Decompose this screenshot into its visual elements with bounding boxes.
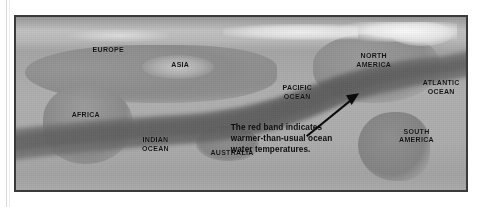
world-map: EUROPE ASIA AFRICA INDIAN OCEAN AUSTRALI… xyxy=(16,17,466,190)
map-label-asia: ASIA xyxy=(171,60,189,69)
figure-frame: EUROPE ASIA AFRICA INDIAN OCEAN AUSTRALI… xyxy=(14,15,468,192)
map-label-indian-ocean: INDIAN OCEAN xyxy=(142,136,169,153)
map-label-north-america: NORTH AMERICA xyxy=(356,52,391,69)
map-label-atlantic-ocean: ATLANTIC OCEAN xyxy=(423,79,460,96)
map-label-south-america: SOUTH AMERICA xyxy=(399,127,434,144)
map-label-pacific-ocean: PACIFIC OCEAN xyxy=(282,84,312,101)
print-grain xyxy=(16,17,466,190)
page-margin-rule-inner xyxy=(9,0,10,207)
map-label-europe: EUROPE xyxy=(93,46,124,55)
page-margin-rule xyxy=(6,0,7,207)
callout-text: The red band indicates warmer-than-usual… xyxy=(231,122,333,155)
map-label-africa: AFRICA xyxy=(72,110,100,119)
page: EUROPE ASIA AFRICA INDIAN OCEAN AUSTRALI… xyxy=(0,0,482,207)
